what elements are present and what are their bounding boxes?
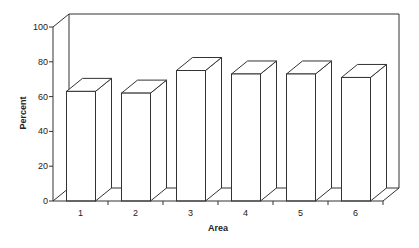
x-tick-label: 2 <box>133 208 138 218</box>
bar-side-face <box>206 58 222 202</box>
bar-1 <box>67 78 112 201</box>
y-tick-label: 20 <box>38 161 48 171</box>
x-tick-label: 1 <box>78 208 83 218</box>
y-tick-label: 40 <box>38 126 48 136</box>
bar-side-face <box>151 80 167 201</box>
y-tick-label: 100 <box>33 22 48 32</box>
bar-front-face <box>287 74 316 201</box>
bar-side-face <box>316 61 332 201</box>
x-axis: 123456 <box>53 201 383 218</box>
y-tick-label: 0 <box>43 196 48 206</box>
bar-front-face <box>122 93 151 201</box>
bar-side-face <box>96 78 112 201</box>
bar-4 <box>232 61 277 201</box>
bar-side-face <box>371 64 387 201</box>
y-tick-label: 80 <box>38 57 48 67</box>
bar-3 <box>177 58 222 202</box>
y-tick-label: 60 <box>38 92 48 102</box>
bar-chart-3d: 020406080100 123456 Percent Area <box>0 0 419 248</box>
bar-front-face <box>232 74 261 201</box>
bar-5 <box>287 61 332 201</box>
x-tick-label: 6 <box>353 208 358 218</box>
x-axis-title: Area <box>208 223 229 233</box>
bar-side-face <box>261 61 277 201</box>
y-axis: 020406080100 <box>33 22 53 206</box>
bar-6 <box>342 64 387 201</box>
bar-2 <box>122 80 167 201</box>
bar-front-face <box>342 77 371 201</box>
bar-front-face <box>177 71 206 202</box>
y-axis-title: Percent <box>18 96 28 129</box>
bar-front-face <box>67 91 96 201</box>
x-tick-label: 5 <box>298 208 303 218</box>
x-tick-label: 4 <box>243 208 248 218</box>
bars <box>67 58 387 202</box>
x-tick-label: 3 <box>188 208 193 218</box>
